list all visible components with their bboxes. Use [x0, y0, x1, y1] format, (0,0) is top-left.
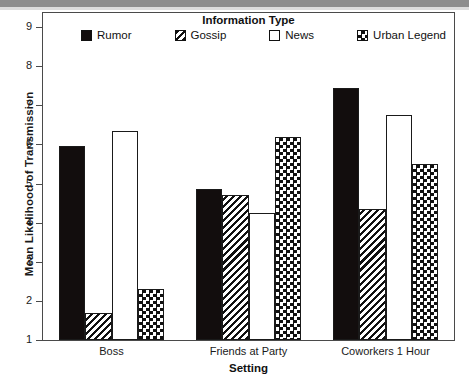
y-axis-tick-label: 6	[4, 137, 32, 149]
y-axis-tick-label: 1	[4, 333, 32, 345]
plot-area	[43, 27, 454, 340]
bar	[412, 164, 438, 340]
legend-title: Information Type	[43, 14, 454, 26]
bar	[275, 137, 301, 340]
y-axis-tick-label: 2	[4, 294, 32, 306]
y-axis-tick-label: 3	[4, 255, 32, 267]
bar-chart-figure: Mean Likelihood of Transmission 12345678…	[0, 0, 469, 384]
bar	[386, 115, 412, 340]
bar	[249, 213, 275, 340]
y-axis-tick-label: 4	[4, 216, 32, 228]
bar	[59, 146, 85, 340]
bar	[222, 195, 248, 340]
bar	[85, 313, 111, 340]
bar	[138, 289, 164, 340]
x-axis-title: Setting	[42, 362, 455, 374]
bar	[359, 209, 385, 340]
x-axis-tick-label: Boss	[99, 345, 123, 357]
y-axis-tick-label: 5	[4, 177, 32, 189]
y-axis-tick-label: 9	[4, 20, 32, 32]
bar	[112, 131, 138, 340]
bar	[333, 88, 359, 340]
x-axis-tick-label: Friends at Party	[210, 345, 288, 357]
x-axis-tick-label: Coworkers 1 Hour	[341, 345, 430, 357]
y-axis-tick-label: 8	[4, 59, 32, 71]
bar	[196, 189, 222, 340]
y-axis-tick-label: 7	[4, 98, 32, 110]
